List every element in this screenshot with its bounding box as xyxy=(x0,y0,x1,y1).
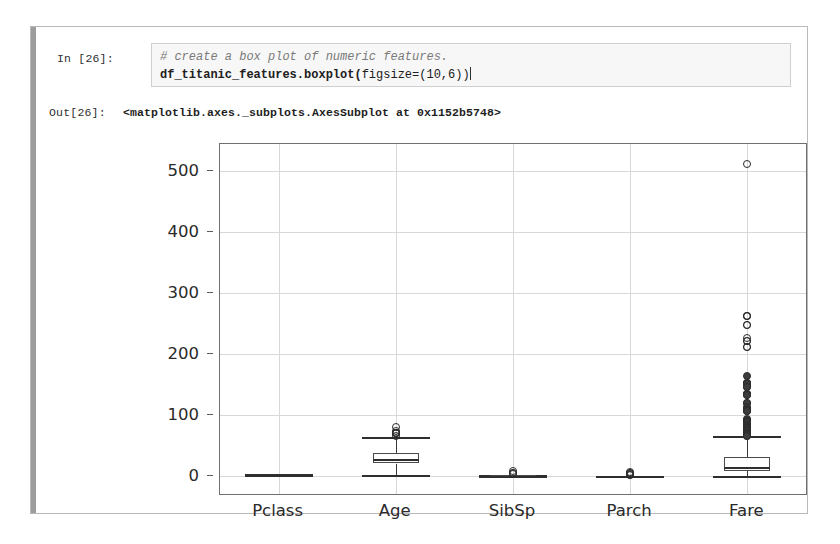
code-args-text: figsize=(10,6)) xyxy=(362,68,470,82)
x-tick-label-sibsp: SibSp xyxy=(489,501,535,520)
x-tick-label-age: Age xyxy=(379,501,411,520)
x-axis: PclassAgeSibSpParchFare xyxy=(219,499,807,525)
code-input-area[interactable]: # create a box plot of numeric features.… xyxy=(151,43,791,87)
outlier-point xyxy=(743,391,751,399)
cell-selection-bar xyxy=(31,27,36,513)
median-line xyxy=(724,467,770,469)
outlier-point xyxy=(392,423,400,431)
cap-lower xyxy=(362,475,430,477)
code-comment-line: # create a box plot of numeric features. xyxy=(160,48,784,66)
outlier-point xyxy=(743,160,751,168)
median-line xyxy=(373,459,419,461)
boxplot-fare xyxy=(689,144,806,494)
outlier-point xyxy=(509,467,517,475)
y-tick-mark xyxy=(207,414,213,415)
y-tick-label: 100 xyxy=(168,404,200,423)
notebook-cell: In [26]: # create a box plot of numeric … xyxy=(30,26,808,514)
outlier-point xyxy=(743,321,751,329)
y-tick-label: 500 xyxy=(168,161,200,180)
x-tick-label-parch: Parch xyxy=(607,501,652,520)
boxplot-parch xyxy=(572,144,689,494)
plot-area xyxy=(219,143,807,495)
boxplot-age xyxy=(337,144,454,494)
y-tick-mark xyxy=(207,475,213,476)
outlier-point xyxy=(743,407,751,415)
code-statement-line: df_titanic_features.boxplot(figsize=(10,… xyxy=(160,66,784,84)
outlier-point xyxy=(743,432,751,440)
x-tick-label-pclass: Pclass xyxy=(252,501,303,520)
output-prompt: Out[26]: xyxy=(49,106,106,119)
y-tick-label: 0 xyxy=(189,465,200,484)
y-tick-mark xyxy=(207,231,213,232)
y-tick-label: 200 xyxy=(168,344,200,363)
median-line xyxy=(256,474,302,476)
x-tick-label-fare: Fare xyxy=(729,501,764,520)
y-tick-label: 400 xyxy=(168,222,200,241)
y-axis: 0100200300400500 xyxy=(131,143,213,495)
matplotlib-figure: 0100200300400500 PclassAgeSibSpParchFare xyxy=(131,131,791,503)
outlier-point xyxy=(743,343,751,351)
text-caret xyxy=(470,67,471,80)
input-prompt: In [26]: xyxy=(57,52,114,65)
y-tick-label: 300 xyxy=(168,283,200,302)
code-call-text: df_titanic_features.boxplot( xyxy=(160,68,362,82)
whisker-lower xyxy=(396,464,397,476)
cap-lower xyxy=(713,476,781,478)
y-tick-mark xyxy=(207,292,213,293)
outlier-point xyxy=(743,312,751,320)
boxplot-sibsp xyxy=(454,144,571,494)
boxplot-pclass xyxy=(220,144,337,494)
y-tick-mark xyxy=(207,170,213,171)
y-tick-mark xyxy=(207,353,213,354)
output-repr-text: <matplotlib.axes._subplots.AxesSubplot a… xyxy=(123,106,501,119)
